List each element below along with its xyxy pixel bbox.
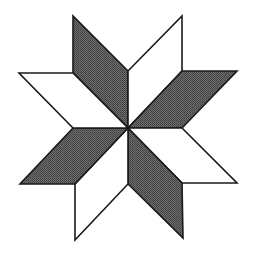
rhombi-group: [19, 16, 237, 240]
star-diagram: Eight-pointed star (LeMoyne star) of rho…: [0, 0, 256, 254]
eight-pointed-star: [0, 0, 256, 254]
